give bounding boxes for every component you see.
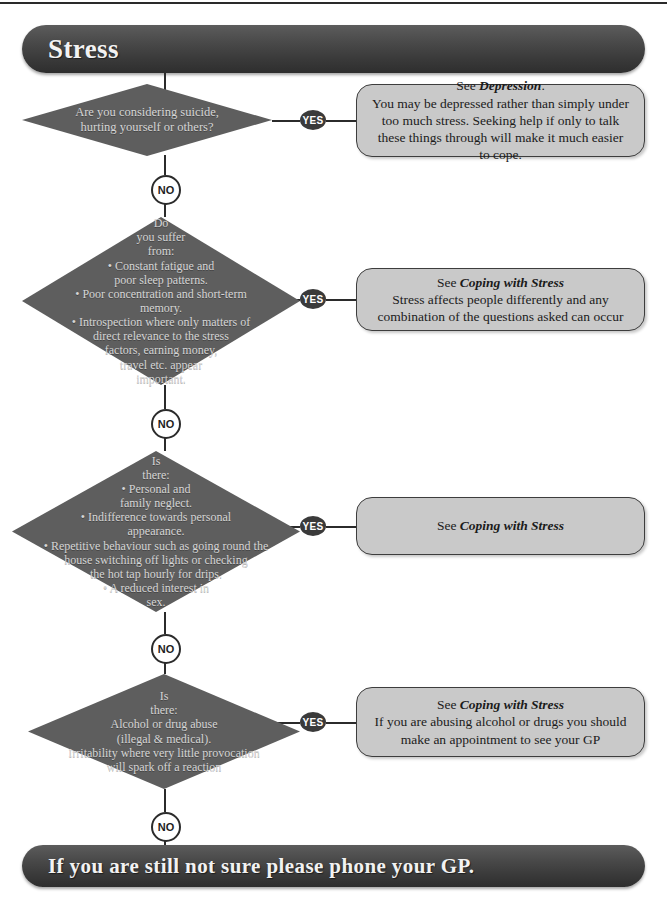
outcome-a2-reference: Coping with Stress — [460, 275, 564, 290]
outcome-a2-lead: See Coping with Stress — [371, 274, 630, 291]
outcome-a4-reference: Coping with Stress — [460, 697, 564, 712]
outcome-a4-lead-prefix: See — [437, 697, 460, 712]
footer-advice-text: If you are still not sure please phone y… — [22, 856, 474, 877]
decision-node-q1[interactable]: Are you considering suicide, hurting you… — [22, 84, 272, 156]
connector-q1-yes-right — [326, 120, 356, 122]
edge-label-yes-q2[interactable]: YES — [300, 289, 326, 309]
outcome-a4-text: See Coping with Stress If you are abusin… — [371, 696, 630, 748]
outcome-a1-body: You may be depressed rather than simply … — [372, 96, 629, 163]
decision-node-q4[interactable]: Is there: Alcohol or drug abuse (illegal… — [28, 674, 300, 789]
outcome-a4-body: If you are abusing alcohol or drugs you … — [375, 714, 627, 746]
decision-node-q3[interactable]: Is there: • Personal and family neglect.… — [12, 451, 300, 612]
outcome-box-a2[interactable]: See Coping with Stress Stress affects pe… — [356, 268, 645, 331]
outcome-a2-body: Stress affects people differently and an… — [378, 292, 624, 324]
connector-q1-yes-left — [272, 120, 300, 122]
edge-label-yes-q4[interactable]: YES — [300, 712, 326, 732]
outcome-a3-lead: See Coping with Stress — [437, 517, 564, 534]
flowchart-sheet: Stress Are you considering suicide, hurt… — [0, 0, 667, 905]
outcome-a2-lead-prefix: See — [437, 275, 460, 290]
decision-q4-label: Is there: Alcohol or drug abuse (illegal… — [28, 674, 300, 789]
decision-node-q2[interactable]: Do you suffer from: • Constant fatigue a… — [22, 217, 300, 385]
connector-q4-to-no4 — [164, 789, 166, 812]
connector-q4-yes-right — [326, 722, 356, 724]
connector-q2-to-no2 — [164, 385, 166, 409]
page-title-banner: Stress — [22, 25, 645, 73]
edge-label-no-q2[interactable]: NO — [151, 409, 181, 439]
connector-q3-yes-right — [326, 526, 356, 528]
outcome-a3-reference: Coping with Stress — [460, 518, 564, 533]
outcome-a4-lead: See Coping with Stress — [371, 696, 630, 713]
edge-label-no-q3[interactable]: NO — [151, 634, 181, 664]
edge-label-no-q1[interactable]: NO — [151, 175, 181, 205]
outcome-box-a3[interactable]: See Coping with Stress — [356, 497, 645, 555]
page-title: Stress — [22, 36, 119, 63]
outcome-a1-lead: See Depression. — [371, 77, 630, 94]
outcome-a3-text: See Coping with Stress — [437, 517, 564, 534]
edge-label-yes-q1[interactable]: YES — [300, 110, 326, 130]
connector-q3-to-no3 — [164, 612, 166, 634]
outcome-a1-text: See Depression. You may be depressed rat… — [371, 77, 630, 163]
decision-q1-label: Are you considering suicide, hurting you… — [22, 84, 272, 156]
outcome-a1-reference: Depression — [479, 78, 541, 93]
connector-q1-to-no1 — [164, 155, 166, 175]
edge-label-yes-q3[interactable]: YES — [300, 516, 326, 536]
outcome-a1-lead-prefix: See — [456, 78, 479, 93]
outcome-a3-lead-prefix: See — [437, 518, 460, 533]
decision-q3-label: Is there: • Personal and family neglect.… — [12, 451, 300, 612]
footer-advice-banner: If you are still not sure please phone y… — [22, 845, 645, 887]
outcome-box-a4[interactable]: See Coping with Stress If you are abusin… — [356, 687, 645, 757]
outcome-box-a1[interactable]: See Depression. You may be depressed rat… — [356, 84, 645, 157]
connector-q2-yes-right — [326, 299, 356, 301]
top-rule-divider — [0, 2, 667, 4]
edge-label-no-q4[interactable]: NO — [151, 812, 181, 842]
outcome-a2-text: See Coping with Stress Stress affects pe… — [371, 274, 630, 326]
outcome-a1-lead-suffix: . — [541, 78, 544, 93]
decision-q2-label: Do you suffer from: • Constant fatigue a… — [22, 217, 300, 385]
